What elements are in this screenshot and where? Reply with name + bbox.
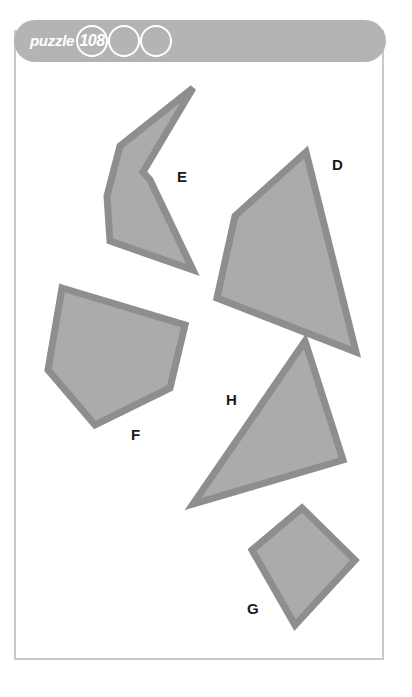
puzzle-shape-d[interactable] [217, 152, 356, 352]
shape-label-f: F [131, 427, 140, 442]
puzzle-page: puzzle 108 EDFHG [0, 0, 412, 697]
puzzle-shape-canvas [0, 0, 412, 697]
puzzle-shape-f[interactable] [48, 288, 185, 425]
puzzle-shape-g[interactable] [252, 508, 355, 625]
shape-label-g: G [247, 601, 259, 616]
puzzle-shape-h[interactable] [193, 341, 343, 504]
shape-label-h: H [226, 392, 237, 407]
shape-label-e: E [177, 169, 187, 184]
shape-label-d: D [332, 157, 343, 172]
